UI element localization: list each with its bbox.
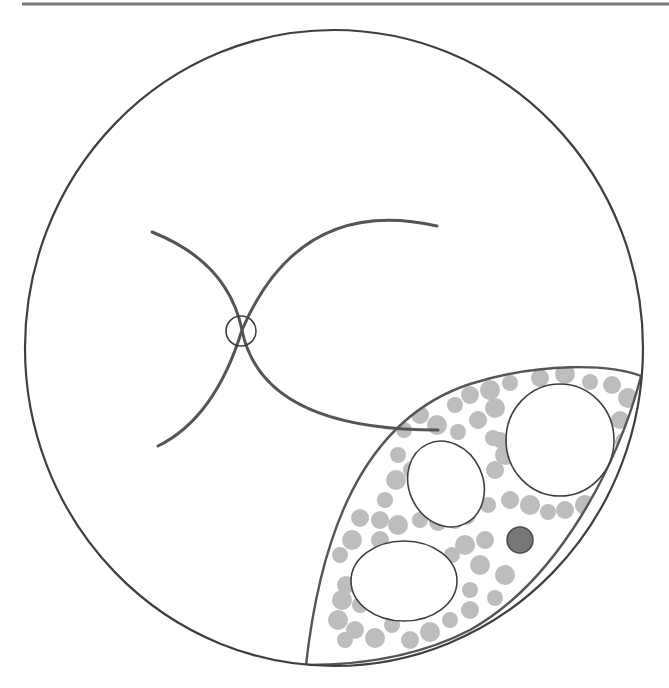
granule-dot [447,397,463,413]
granule-dot [485,398,505,418]
granule-dot [603,376,621,394]
granule-dot [390,447,406,463]
granule-dot [377,492,393,508]
granule-dot [461,386,479,404]
granule-dot [442,612,458,628]
granule-dot [470,555,490,575]
granule-dot [590,490,610,510]
arc-right-upper-to-lower-left [158,220,437,446]
granule-dot [388,515,408,535]
granule-dot [480,380,500,400]
granule-dot [450,424,466,440]
granule-dot [401,631,419,649]
granule-dot [332,547,348,563]
granule-dot [332,590,352,610]
granule-dot [487,590,503,606]
granule-dot [427,415,447,435]
arc-left-upper-to-lower-right [152,232,438,430]
granule-dot [520,495,540,515]
vacuole-large-round [506,384,614,496]
granule-dot [371,511,389,529]
granule-dot [502,375,518,391]
dark-nucleus-dot [507,527,533,553]
granule-dot [386,470,406,490]
granule-dot [351,509,369,527]
granule-dot [461,601,479,619]
granule-dot [337,632,353,648]
granule-dot [540,504,556,520]
vacuole-oval-lower [351,541,457,621]
granule-dot [556,501,574,519]
granule-dot [328,610,348,630]
granule-dot [462,582,478,598]
granule-dot [342,530,362,550]
granule-dot [365,628,385,648]
cell-diagram [0,0,669,688]
granule-dot [476,531,494,549]
granule-dot [420,622,440,642]
granule-dot [469,411,487,429]
outer-cell-membrane [25,30,643,666]
crossing-arcs [152,220,438,446]
granule-dot [501,491,519,509]
diagram-svg [0,0,669,688]
granule-dot [495,565,515,585]
granule-dot [582,374,598,390]
granule-dot [485,430,501,446]
vacuole-oval-middle [394,428,498,539]
granule-dot [531,369,549,387]
